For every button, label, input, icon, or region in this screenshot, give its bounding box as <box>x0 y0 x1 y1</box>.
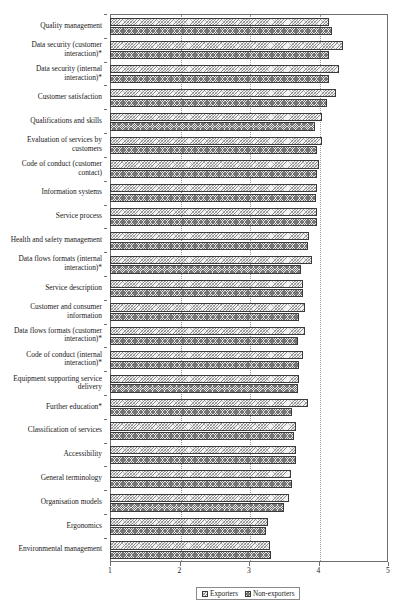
bar-group <box>110 14 388 38</box>
bar-non-exporters <box>110 146 317 154</box>
category-label-text: Evaluation of services by customers <box>0 136 102 153</box>
bar-non-exporters <box>110 313 299 321</box>
bar-exporters <box>110 494 289 502</box>
x-tick-label: 3 <box>247 566 251 575</box>
nonexporters-swatch-icon <box>245 591 251 597</box>
bar-non-exporters <box>110 551 271 559</box>
category-label-text: Code of conduct (internal interaction)* <box>0 351 102 368</box>
bar-group <box>110 62 388 86</box>
bar-non-exporters <box>110 361 299 369</box>
bar-group <box>110 538 388 562</box>
legend-label-exporters: Exporters <box>210 590 238 598</box>
bar-exporters <box>110 399 308 407</box>
bar-group <box>110 252 388 276</box>
category-label-text: Organisation models <box>41 498 102 507</box>
bar-non-exporters <box>110 27 332 35</box>
bar-group <box>110 276 388 300</box>
bar-group <box>110 228 388 252</box>
bar-group <box>110 419 388 443</box>
bar-non-exporters <box>110 480 292 488</box>
legend-item-exporters: Exporters <box>202 590 238 598</box>
category-label: Equipment supporting service delivery <box>0 371 107 395</box>
bar-non-exporters <box>110 51 329 59</box>
bar-exporters <box>110 280 303 288</box>
bar-exporters <box>110 89 336 97</box>
category-label: Classification of services <box>0 419 107 443</box>
category-tick <box>104 514 107 515</box>
legend-label-non-exporters: Non-exporters <box>253 590 295 598</box>
category-axis-labels: Quality managementData security (custome… <box>0 14 107 562</box>
bar-exporters <box>110 541 270 549</box>
category-tick <box>104 228 107 229</box>
category-label: Ergonomics <box>0 514 107 538</box>
category-label-text: Data security (customer interaction)* <box>0 41 102 58</box>
category-label: Qualifications and skills <box>0 109 107 133</box>
bar-exporters <box>110 18 329 26</box>
category-label: Evaluation of services by customers <box>0 133 107 157</box>
category-tick <box>104 443 107 444</box>
bar-exporters <box>110 375 299 383</box>
bar-exporters <box>110 256 312 264</box>
category-label-text: Service process <box>56 212 102 221</box>
bar-non-exporters <box>110 289 303 297</box>
category-label-text: Accessibility <box>63 450 102 459</box>
category-label-text: Customer and consumer information <box>0 303 102 320</box>
category-label-text: Health and safety management <box>11 236 102 245</box>
bar-group <box>110 181 388 205</box>
category-label-text: Ergonomics <box>66 522 102 531</box>
category-label: Health and safety management <box>0 228 107 252</box>
bar-exporters <box>110 184 317 192</box>
category-tick <box>104 85 107 86</box>
x-tick-label: 5 <box>386 566 390 575</box>
bar-group <box>110 466 388 490</box>
bar-non-exporters <box>110 265 301 273</box>
category-label-text: Code of conduct (customer contact) <box>0 160 102 177</box>
category-label: Data security (customer interaction)* <box>0 38 107 62</box>
category-label-text: Classification of services <box>28 426 102 435</box>
category-tick <box>104 347 107 348</box>
bar-exporters <box>110 208 317 216</box>
bar-non-exporters <box>110 170 317 178</box>
bar-group <box>110 109 388 133</box>
category-label-text: Service description <box>45 284 102 293</box>
category-tick <box>104 252 107 253</box>
bar-exporters <box>110 160 319 168</box>
category-tick <box>104 538 107 539</box>
bar-group <box>110 395 388 419</box>
category-label: Data flows formats (customer interaction… <box>0 324 107 348</box>
category-tick <box>104 38 107 39</box>
category-label-text: Information systems <box>41 188 102 197</box>
x-tick-label: 4 <box>317 566 321 575</box>
category-label: Data security (internal interaction)* <box>0 62 107 86</box>
category-label: Quality management <box>0 14 107 38</box>
bar-exporters <box>110 446 296 454</box>
bar-non-exporters <box>110 122 315 130</box>
bar-group <box>110 514 388 538</box>
bar-non-exporters <box>110 242 308 250</box>
bar-exporters <box>110 65 339 73</box>
category-label-text: Data flows formats (customer interaction… <box>0 327 102 344</box>
bar-non-exporters <box>110 194 316 202</box>
category-label: Accessibility <box>0 443 107 467</box>
category-label: Customer and consumer information <box>0 300 107 324</box>
bar-exporters <box>110 422 296 430</box>
x-tick-label: 2 <box>178 566 182 575</box>
bar-group <box>110 157 388 181</box>
chart-figure: Quality managementData security (custome… <box>0 0 405 616</box>
bar-exporters <box>110 137 322 145</box>
bar-non-exporters <box>110 503 284 511</box>
category-tick <box>104 157 107 158</box>
bar-group <box>110 85 388 109</box>
category-label: Environmental management <box>0 538 107 562</box>
category-tick <box>104 133 107 134</box>
category-label-text: Customer satisfaction <box>38 93 102 102</box>
bar-group <box>110 443 388 467</box>
bar-exporters <box>110 232 309 240</box>
bar-series-container <box>110 14 388 562</box>
bar-non-exporters <box>110 384 298 392</box>
bar-exporters <box>110 351 303 359</box>
bar-non-exporters <box>110 218 317 226</box>
category-label-text: Quality management <box>40 22 102 31</box>
category-label: General terminology <box>0 466 107 490</box>
category-tick <box>104 371 107 372</box>
